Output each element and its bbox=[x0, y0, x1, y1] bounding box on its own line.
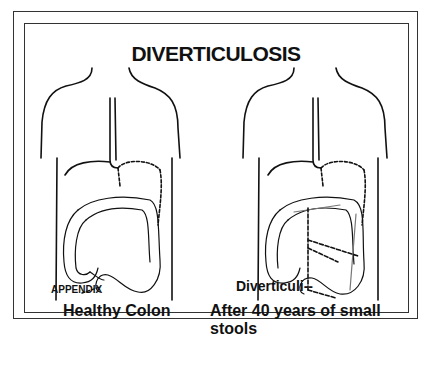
diseased-torso-outline bbox=[243, 68, 387, 300]
healthy-torso-outline bbox=[41, 68, 180, 300]
healthy-colon-caption: Healthy Colon bbox=[63, 302, 171, 320]
diverticuli-label: Diverticuli-- bbox=[236, 278, 313, 294]
diseased-colon-caption: After 40 years of small stools bbox=[210, 302, 432, 338]
healthy-colon bbox=[64, 197, 161, 292]
appendix-label: APPENDIX bbox=[51, 284, 102, 295]
